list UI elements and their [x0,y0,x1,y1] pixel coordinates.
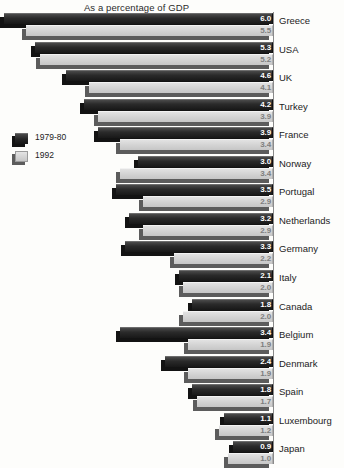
legend-label: 1992 [35,150,54,160]
chart-row: 4.64.1UK [0,70,344,96]
category-label: Norway [279,158,311,169]
bar-series-1992: 3.4 [120,168,273,179]
category-label: Canada [279,301,312,312]
category-label: Turkey [279,101,308,112]
bar-series-1979-80: 3.2 [129,213,273,224]
bar-series-1992: 4.1 [89,82,273,93]
legend-swatch-light [15,151,28,162]
chart-row: 5.35.2USA [0,42,344,68]
category-label: Italy [279,272,296,283]
chart-row: 2.12.0Italy [0,270,344,296]
bar-value-label: 1.9 [260,368,271,379]
legend-swatch-dark [15,133,28,144]
bar-fill [89,82,273,93]
plot-area: 6.05.5Greece5.35.2USA4.64.1UK4.23.9Turke… [0,12,344,468]
category-label: UK [279,72,292,83]
bar-series-1979-80: 3.0 [138,156,273,167]
bar-value-label: 5.5 [260,25,271,36]
bar-fill [120,327,273,338]
chart-row: 3.22.9Netherlands [0,213,344,239]
bar-series-1992: 2.9 [143,196,273,207]
bar-value-label: 2.2 [260,253,271,264]
bar-value-label: 5.3 [260,42,271,53]
bar-series-1992: 5.5 [26,25,273,36]
bar-series-1979-80: 2.1 [179,270,273,281]
bar-fill [35,42,273,53]
bar-fill [4,13,273,24]
bar-series-1992: 1.2 [219,425,273,436]
bar-series-1979-80: 3.5 [116,184,273,195]
bar-series-1992: 3.4 [120,139,273,150]
bar-value-label: 5.2 [260,54,271,65]
chart-row: 4.23.9Turkey [0,99,344,125]
bar-fill [98,127,273,138]
category-label: Luxembourg [279,415,332,426]
bar-value-label: 1.1 [260,413,271,424]
category-label: Greece [279,15,310,26]
bar-value-label: 3.3 [260,241,271,252]
bar-value-label: 1.2 [260,425,271,436]
bar-value-label: 3.4 [260,139,271,150]
bar-value-label: 4.2 [260,99,271,110]
bar-fill [120,139,273,150]
bar-fill [125,241,273,252]
bar-fill [26,25,273,36]
bar-series-1992: 2.0 [183,282,273,293]
bar-value-label: 2.0 [260,311,271,322]
bar-fill [138,156,273,167]
bar-value-label: 1.0 [260,453,271,464]
bar-series-1979-80: 3.3 [125,241,273,252]
bar-fill [98,111,273,122]
bar-fill [66,70,273,81]
category-label: Japan [279,443,305,454]
category-label: USA [279,44,299,55]
bar-fill [84,99,273,110]
chart-row: 3.41.9Belgium [0,327,344,353]
bar-fill [165,356,273,367]
bar-value-label: 1.7 [260,396,271,407]
bar-series-1979-80: 1.8 [192,384,273,395]
bar-value-label: 2.4 [260,356,271,367]
bar-series-1979-80: 3.4 [120,327,273,338]
chart-row: 1.11.2Luxembourg [0,413,344,439]
bar-series-1979-80: 5.3 [35,42,273,53]
category-label: Spain [279,386,303,397]
bar-fill [129,213,273,224]
chart-row: 6.05.5Greece [0,13,344,39]
bar-value-label: 3.2 [260,213,271,224]
bar-value-label: 2.1 [260,270,271,281]
bar-fill [179,270,273,281]
bar-fill [116,184,273,195]
bar-series-1979-80: 3.9 [98,127,273,138]
category-label: Netherlands [279,215,330,226]
bar-series-1979-80: 4.6 [66,70,273,81]
bar-value-label: 1.8 [260,384,271,395]
bar-series-1992: 1.9 [188,339,273,350]
category-label: Portugal [279,186,314,197]
chart-row: 3.52.9Portugal [0,184,344,210]
chart-row: 3.32.2Germany [0,241,344,267]
bar-series-1992: 1.9 [188,368,273,379]
bar-series-1992: 2.2 [174,253,273,264]
bar-value-label: 3.4 [260,168,271,179]
category-label: France [279,129,309,140]
chart-row: 0.91.0Japan [0,441,344,467]
chart-row: 1.81.7Spain [0,384,344,410]
category-label: Germany [279,243,318,254]
bar-value-label: 3.5 [260,184,271,195]
chart-row: 2.41.9Denmark [0,356,344,382]
bar-series-1992: 1.7 [197,396,273,407]
bar-series-1979-80: 6.0 [4,13,273,24]
bar-fill [143,196,273,207]
bar-series-1992: 5.2 [40,54,273,65]
bar-series-1979-80: 4.2 [84,99,273,110]
bar-value-label: 3.4 [260,327,271,338]
bar-value-label: 4.1 [260,82,271,93]
bar-series-1979-80: 2.4 [165,356,273,367]
bar-value-label: 2.9 [260,225,271,236]
bar-fill [174,253,273,264]
bar-value-label: 3.9 [260,111,271,122]
bar-fill [143,225,273,236]
bar-fill [120,168,273,179]
chart-row: 1.82.0Canada [0,299,344,325]
